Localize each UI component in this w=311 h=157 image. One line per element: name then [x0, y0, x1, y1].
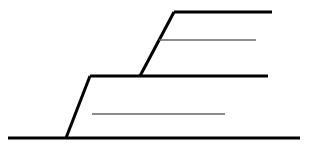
- diagram-line-upper-riser: [140, 12, 174, 76]
- diagram-svg: [0, 0, 311, 157]
- diagram-line-lower-riser: [66, 76, 90, 138]
- diagram-series-group: [8, 12, 300, 138]
- diagram-canvas: [0, 0, 311, 157]
